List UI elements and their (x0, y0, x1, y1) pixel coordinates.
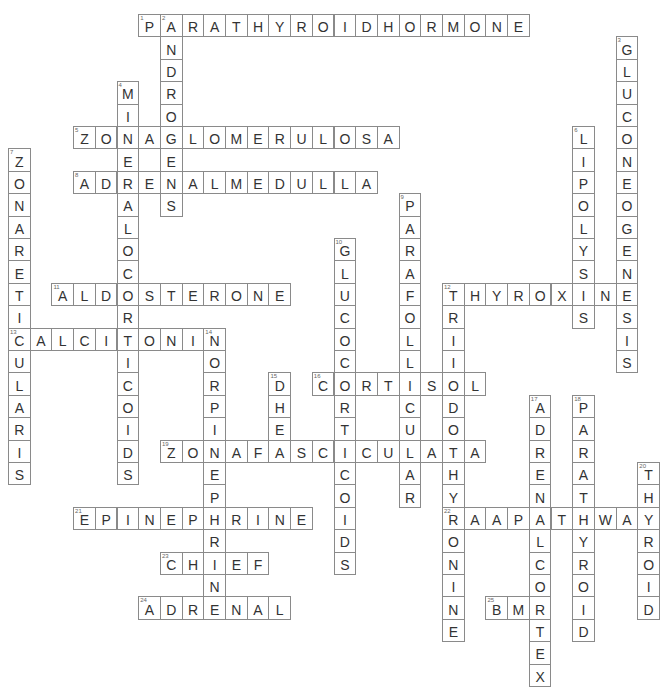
crossword-cell[interactable]: N (616, 148, 639, 171)
crossword-cell[interactable]: A (138, 126, 161, 149)
crossword-cell[interactable]: S (616, 350, 639, 373)
crossword-cell[interactable]: R (203, 529, 226, 552)
crossword-cell[interactable]: E (290, 507, 313, 530)
crossword-cell[interactable]: C (529, 552, 552, 575)
crossword-cell[interactable]: D (268, 171, 291, 194)
crossword-cell[interactable]: I (442, 574, 465, 597)
crossword-cell[interactable]: L (334, 260, 357, 283)
crossword-cell[interactable]: H (203, 507, 226, 530)
crossword-cell[interactable]: R (442, 305, 465, 328)
crossword-cell[interactable]: Y (268, 14, 291, 37)
crossword-cell[interactable]: O (442, 529, 465, 552)
crossword-cell[interactable]: E (529, 462, 552, 485)
crossword-cell[interactable]: L (529, 529, 552, 552)
crossword-cell[interactable]: M (225, 126, 248, 149)
crossword-cell[interactable]: T (8, 283, 31, 306)
crossword-cell[interactable]: 10G (334, 238, 357, 261)
crossword-cell[interactable]: P (203, 395, 226, 418)
crossword-cell[interactable]: A (399, 260, 422, 283)
crossword-cell[interactable]: A (399, 216, 422, 239)
crossword-cell[interactable]: L (399, 328, 422, 351)
crossword-cell[interactable]: E (442, 619, 465, 642)
crossword-cell[interactable]: O (225, 283, 248, 306)
crossword-cell[interactable]: I (203, 417, 226, 440)
crossword-cell[interactable]: A (30, 328, 53, 351)
crossword-cell[interactable]: A (485, 507, 508, 530)
crossword-cell[interactable]: N (203, 440, 226, 463)
crossword-cell[interactable]: 2A (160, 14, 183, 37)
crossword-cell[interactable]: I (203, 552, 226, 575)
crossword-cell[interactable]: O (117, 395, 140, 418)
crossword-cell[interactable]: I (442, 328, 465, 351)
crossword-cell[interactable]: R (290, 14, 313, 37)
crossword-cell[interactable]: R (203, 372, 226, 395)
crossword-cell[interactable]: L (312, 126, 335, 149)
crossword-cell[interactable]: H (268, 395, 291, 418)
crossword-cell[interactable]: R (637, 529, 660, 552)
crossword-cell[interactable]: 5Z (73, 126, 96, 149)
crossword-cell[interactable]: E (268, 417, 291, 440)
crossword-cell[interactable]: 22R (442, 507, 465, 530)
crossword-cell[interactable]: U (399, 417, 422, 440)
crossword-cell[interactable]: X (529, 664, 552, 687)
crossword-cell[interactable]: I (637, 574, 660, 597)
crossword-cell[interactable]: R (182, 14, 205, 37)
crossword-cell[interactable]: N (616, 260, 639, 283)
crossword-cell[interactable]: O (95, 126, 118, 149)
crossword-cell[interactable]: I (442, 350, 465, 373)
crossword-cell[interactable]: F (247, 440, 270, 463)
crossword-cell[interactable]: N (529, 484, 552, 507)
crossword-cell[interactable]: A (529, 507, 552, 530)
crossword-cell[interactable]: R (399, 484, 422, 507)
crossword-cell[interactable]: 8A (73, 171, 96, 194)
crossword-cell[interactable]: H (377, 14, 400, 37)
crossword-cell[interactable]: O (529, 283, 552, 306)
crossword-cell[interactable]: M (507, 596, 530, 619)
crossword-cell[interactable]: S (572, 305, 595, 328)
crossword-cell[interactable]: I (117, 104, 140, 127)
crossword-cell[interactable]: R (399, 238, 422, 261)
crossword-cell[interactable]: 13C (8, 328, 31, 351)
crossword-cell[interactable]: 9P (399, 193, 422, 216)
crossword-cell[interactable]: D (637, 596, 660, 619)
crossword-cell[interactable]: H (572, 507, 595, 530)
crossword-cell[interactable]: R (268, 126, 291, 149)
crossword-cell[interactable]: L (73, 283, 96, 306)
crossword-cell[interactable]: O (399, 305, 422, 328)
crossword-cell[interactable]: Y (485, 283, 508, 306)
crossword-cell[interactable]: P (182, 507, 205, 530)
crossword-cell[interactable]: C (117, 372, 140, 395)
crossword-cell[interactable]: T (551, 507, 574, 530)
crossword-cell[interactable]: I (8, 440, 31, 463)
crossword-cell[interactable]: D (160, 59, 183, 82)
crossword-cell[interactable]: H (442, 462, 465, 485)
crossword-cell[interactable]: O (117, 283, 140, 306)
crossword-cell[interactable]: 6L (572, 126, 595, 149)
crossword-cell[interactable]: R (225, 507, 248, 530)
crossword-cell[interactable]: L (572, 216, 595, 239)
crossword-cell[interactable]: I (117, 507, 140, 530)
crossword-cell[interactable]: L (616, 59, 639, 82)
crossword-cell[interactable]: L (182, 126, 205, 149)
crossword-cell[interactable]: O (442, 417, 465, 440)
crossword-cell[interactable]: R (117, 305, 140, 328)
crossword-cell[interactable]: L (8, 372, 31, 395)
crossword-cell[interactable]: L (203, 171, 226, 194)
crossword-cell[interactable]: S (616, 305, 639, 328)
crossword-cell[interactable]: A (420, 440, 443, 463)
crossword-cell[interactable]: E (117, 148, 140, 171)
crossword-cell[interactable]: W (594, 507, 617, 530)
crossword-cell[interactable]: R (572, 440, 595, 463)
crossword-cell[interactable]: S (138, 283, 161, 306)
crossword-cell[interactable]: R (8, 417, 31, 440)
crossword-cell[interactable]: C (334, 350, 357, 373)
crossword-cell[interactable]: R (160, 81, 183, 104)
crossword-cell[interactable]: N (442, 596, 465, 619)
crossword-cell[interactable]: A (268, 440, 291, 463)
crossword-cell[interactable]: 23C (160, 552, 183, 575)
crossword-cell[interactable]: O (160, 104, 183, 127)
crossword-cell[interactable]: A (203, 14, 226, 37)
crossword-cell[interactable]: U (616, 81, 639, 104)
crossword-cell[interactable]: O (117, 238, 140, 261)
crossword-cell[interactable]: I (8, 305, 31, 328)
